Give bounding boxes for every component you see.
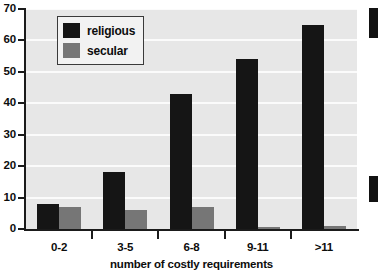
bar-religious-3-5[interactable] — [103, 172, 125, 229]
legend-swatch-secular — [63, 43, 80, 58]
bar-group — [170, 9, 214, 229]
y-axis-tick — [18, 8, 25, 10]
bar-secular-6-8[interactable] — [192, 207, 214, 229]
legend-swatch-religious — [63, 23, 80, 38]
scan-artifact-top — [369, 8, 378, 38]
y-axis-tick-label: 40 — [0, 97, 16, 109]
x-axis-tick — [91, 231, 93, 239]
x-axis-line — [24, 229, 359, 231]
bar-group — [302, 9, 346, 229]
y-axis-tick-label: 10 — [0, 192, 16, 204]
bar-religious->11[interactable] — [302, 25, 324, 229]
y-axis-tick-label: 60 — [0, 34, 16, 46]
bar-group — [236, 9, 280, 229]
x-axis-tick-label-6-8: 6-8 — [157, 241, 227, 253]
y-axis-tick-label: 50 — [0, 66, 16, 78]
legend-item-secular: secular — [63, 42, 135, 59]
y-axis-tick — [18, 39, 25, 41]
x-axis-tick-label-3-5: 3-5 — [90, 241, 160, 253]
y-axis-tick — [18, 165, 25, 167]
x-axis-tick-label-9-11: 9-11 — [223, 241, 293, 253]
bar-religious-0-2[interactable] — [37, 204, 59, 229]
y-axis-tick-label: 0 — [0, 223, 16, 235]
y-axis-tick — [18, 228, 25, 230]
y-axis-tick — [18, 134, 25, 136]
bar-religious-6-8[interactable] — [170, 94, 192, 229]
bar-secular-3-5[interactable] — [125, 210, 147, 229]
bar-chart-figure: 010203040506070 0-23-56-89-11>11 number … — [0, 0, 380, 277]
y-axis-tick — [18, 102, 25, 104]
x-axis-tick — [224, 231, 226, 239]
scan-artifact-bottom — [369, 176, 378, 202]
y-axis-tick-label: 30 — [0, 129, 16, 141]
x-axis-tick — [157, 231, 159, 239]
legend-item-religious: religious — [63, 22, 135, 39]
y-axis-tick-label: 20 — [0, 160, 16, 172]
legend-label-religious: religious — [87, 25, 135, 37]
bar-religious-9-11[interactable] — [236, 59, 258, 229]
y-axis-tick — [18, 71, 25, 73]
x-axis-tick — [290, 231, 292, 239]
x-axis-tick-label-0-2: 0-2 — [24, 241, 94, 253]
legend-label-secular: secular — [87, 45, 128, 57]
x-axis-title: number of costly requirements — [26, 258, 357, 270]
x-axis-tick-label->11: >11 — [289, 241, 359, 253]
y-axis-tick — [18, 197, 25, 199]
bar-secular-0-2[interactable] — [59, 207, 81, 229]
chart-legend: religious secular — [57, 16, 144, 65]
y-axis-tick-label: 70 — [0, 3, 16, 15]
